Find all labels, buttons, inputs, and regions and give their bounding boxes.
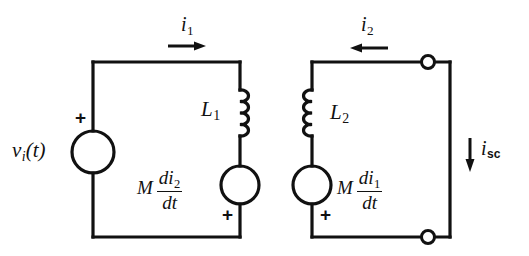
current-label-i2-subscript: 2 <box>367 23 374 38</box>
left-dep-source-denominator: dt <box>157 191 183 212</box>
independent-source-plus-sign: + <box>75 108 86 127</box>
current-label-isc-subscript: sc <box>487 147 500 161</box>
left-dep-source-numerator-subscript: 2 <box>174 177 180 191</box>
right-dep-source-numerator: di1 <box>357 168 383 191</box>
right-dependent-source-circle <box>293 166 331 204</box>
right-dep-source-numerator-di: di <box>359 167 374 188</box>
right-dependent-source-label: Mdi1dt <box>337 168 382 212</box>
left-dep-source-fraction: di2dt <box>157 168 183 212</box>
circuit-diagram-figure: vi(t) + L1 L2 Mdi2dt + Mdi1dt + i1 i2 is… <box>0 0 529 256</box>
current-label-i1: i1 <box>181 14 194 37</box>
left-dependent-source-circle <box>221 166 259 204</box>
inductor-L2-letter: L <box>330 100 342 124</box>
inductor-L1-letter: L <box>201 97 213 121</box>
inductor-L1-subscript: 1 <box>213 108 220 123</box>
current-label-i1-subscript: 1 <box>187 23 194 38</box>
right-dependent-source-plus-sign: + <box>320 205 331 224</box>
current-arrow-i2 <box>350 44 388 53</box>
inductor-L2-label: L2 <box>330 102 349 126</box>
inductor-L1-label: L1 <box>201 99 220 123</box>
current-label-i2: i2 <box>361 14 374 37</box>
source-label-of-t: (t) <box>26 138 46 162</box>
left-dependent-source-plus-sign: + <box>222 205 233 224</box>
left-dep-source-coefficient-M: M <box>137 177 153 198</box>
right-dep-source-numerator-subscript: 1 <box>374 177 380 191</box>
current-label-i2-letter: i <box>361 13 367 35</box>
open-terminal-bottom <box>422 231 435 244</box>
inductor-L2-subscript: 2 <box>342 111 349 126</box>
left-dep-source-numerator-di: di <box>159 167 174 188</box>
source-label-vi-of-t: vi(t) <box>12 140 46 164</box>
current-label-i1-letter: i <box>181 13 187 35</box>
right-dep-source-fraction: di1dt <box>357 168 383 212</box>
current-arrow-i1 <box>168 42 206 51</box>
open-terminal-top <box>422 56 435 69</box>
right-dep-source-coefficient-M: M <box>337 177 353 198</box>
inductor-L2-coils <box>304 90 312 136</box>
circuit-schematic-canvas <box>0 0 529 256</box>
inductor-L1-coils <box>240 90 248 136</box>
right-dep-source-denominator: dt <box>357 191 383 212</box>
current-arrow-isc <box>466 138 475 172</box>
left-dep-source-numerator: di2 <box>157 168 183 191</box>
source-label-v: v <box>12 138 21 162</box>
current-label-isc: isc <box>481 138 500 160</box>
independent-source-circle <box>72 131 114 173</box>
current-label-isc-letter: i <box>481 137 487 159</box>
left-dependent-source-label: Mdi2dt <box>137 168 182 212</box>
